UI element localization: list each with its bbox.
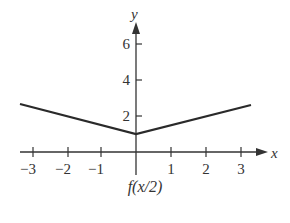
y-axis-label: y — [129, 6, 138, 22]
x-axis-label: x — [270, 145, 278, 161]
y-axis-arrow-icon — [132, 22, 140, 34]
x-tick-label: 2 — [202, 161, 210, 177]
y-tick-label: 6 — [123, 36, 131, 52]
y-ticks — [136, 44, 142, 116]
x-tick-label: 1 — [167, 161, 175, 177]
chart-caption: f(x/2) — [0, 178, 290, 196]
x-tick-label: −1 — [88, 161, 104, 177]
y-tick-label: 4 — [123, 72, 131, 88]
x-tick-label: 3 — [237, 161, 245, 177]
x-tick-label: −3 — [20, 161, 36, 177]
y-tick-label: 2 — [123, 108, 131, 124]
x-axis-arrow-icon — [256, 148, 268, 156]
x-tick-label: −2 — [55, 161, 71, 177]
